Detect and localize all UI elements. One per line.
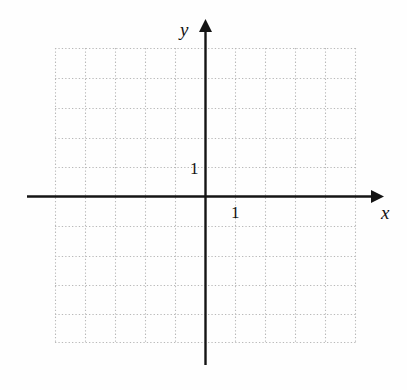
y-axis-label: y	[180, 20, 188, 39]
x-axis-label: x	[381, 203, 389, 222]
y-axis	[199, 19, 212, 365]
y-axis-tick-label-one: 1	[190, 160, 199, 177]
coordinate-plane-svg	[0, 0, 407, 390]
x-axis-tick-label-one: 1	[231, 204, 240, 221]
y-axis-arrow-icon	[199, 19, 212, 32]
coordinate-grid-figure: y x 1 1	[0, 0, 407, 390]
